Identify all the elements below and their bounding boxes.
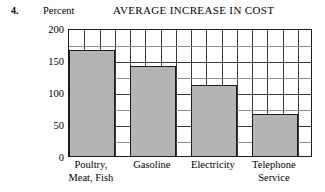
x-axis-category-labels: Poultry,Meat, FishGasolineElectricityTel…: [68, 159, 312, 192]
x-axis-label-line: Electricity: [191, 159, 235, 170]
y-axis-tick-label: 100: [4, 88, 64, 99]
grid-line-vertical: [176, 30, 177, 156]
grid-line-horizontal-minor: [69, 46, 311, 47]
question-number: 4.: [11, 5, 19, 17]
y-axis-tick-labels: 050100150200: [0, 29, 64, 157]
y-axis-title: Percent: [43, 5, 75, 17]
grid-line-vertical: [115, 30, 116, 156]
y-axis-tick-label: 50: [4, 120, 64, 131]
y-axis-tick-label: 200: [4, 24, 64, 35]
chart-title: AVERAGE INCREASE IN COST: [113, 4, 274, 17]
bar: [130, 66, 176, 156]
x-axis-label-line: Meat, Fish: [51, 172, 131, 185]
grid-line-vertical: [237, 30, 238, 156]
grid-line-vertical: [298, 30, 299, 156]
y-axis-tick-label: 150: [4, 56, 64, 67]
chart-figure: 4. Percent AVERAGE INCREASE IN COST 0501…: [0, 0, 325, 192]
x-axis-label-line: Poultry,: [74, 159, 107, 170]
plot-grid-and-bars: [69, 30, 311, 156]
x-axis-label-line: Gasoline: [133, 159, 170, 170]
bar: [69, 50, 115, 156]
x-axis-label-line: Telephone: [252, 159, 296, 170]
x-axis-label-line: Service: [234, 172, 314, 185]
plot-area: [68, 29, 312, 157]
x-axis-label: TelephoneService: [234, 159, 314, 184]
bar: [252, 114, 298, 156]
bar: [191, 85, 237, 156]
